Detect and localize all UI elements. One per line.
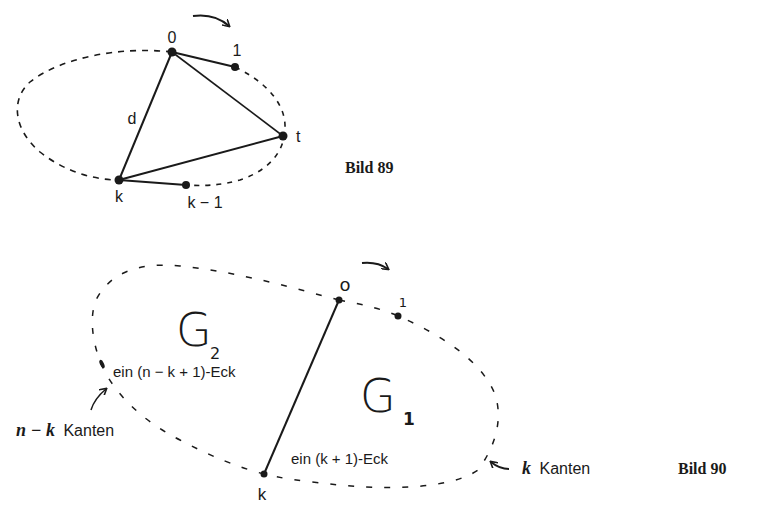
- figure-89: 0 1 t k k − 1 d Bild 89: [17, 15, 393, 211]
- annotation-arrow-left-icon: [91, 389, 106, 410]
- vertex-1-label: 1: [399, 295, 407, 310]
- vertex-1-label: 1: [233, 42, 242, 59]
- region-g1-letter: G: [360, 369, 396, 423]
- edge-d-label: d: [128, 110, 137, 127]
- clockwise-arrow-icon: [193, 15, 229, 26]
- region-g1-description: ein (k + 1)-Eck: [291, 450, 389, 467]
- region-g2-description: ein (n − k + 1)-Eck: [113, 363, 236, 380]
- vertex-k-label: k: [115, 188, 124, 205]
- left-edge-count-var: n − k: [16, 420, 55, 440]
- diagram-canvas: 0 1 t k k − 1 d Bild 89 o 1 k G 2 ein (n…: [0, 0, 762, 525]
- vertex-k-minus-1-label: k − 1: [187, 194, 222, 211]
- polygon-boundary-dashed: [17, 50, 172, 180]
- vertex-t: [279, 132, 288, 141]
- region-g2-subscript: 2: [210, 344, 220, 363]
- vertex-k: [115, 176, 124, 185]
- edge-k-t: [119, 136, 283, 180]
- vertex-0: [168, 48, 177, 57]
- vertex-k-label: k: [258, 485, 267, 504]
- region-g2-letter: G: [176, 303, 212, 357]
- edge-k-k1: [119, 180, 186, 185]
- right-edge-count-word: Kanten: [540, 460, 591, 477]
- chord-o-k: [264, 300, 339, 474]
- vertex-0-label: 0: [168, 29, 177, 46]
- vertex-k: [261, 471, 268, 478]
- clockwise-arrow-icon: [362, 263, 388, 269]
- left-edge-count-word: Kanten: [63, 422, 114, 439]
- left-edge-count: n − k Kanten: [16, 420, 114, 440]
- figure-89-caption: Bild 89: [345, 159, 393, 176]
- region-g1-subscript: 1: [403, 409, 415, 429]
- vertex-1: [231, 63, 239, 71]
- vertex-1: [395, 313, 402, 320]
- vertex-o: [336, 297, 343, 304]
- vertex-o-label: o: [339, 274, 350, 295]
- vertex-t-label: t: [296, 128, 301, 145]
- right-edge-count: k Kanten: [522, 458, 590, 478]
- figure-90-caption: Bild 90: [678, 460, 726, 477]
- figure-90: o 1 k G 2 ein (n − k + 1)-Eck G 1 ein (k…: [16, 263, 726, 504]
- annotation-arrow-right-icon: [491, 462, 509, 469]
- right-edge-count-var: k: [522, 458, 531, 478]
- vertex-k-minus-1: [182, 181, 190, 189]
